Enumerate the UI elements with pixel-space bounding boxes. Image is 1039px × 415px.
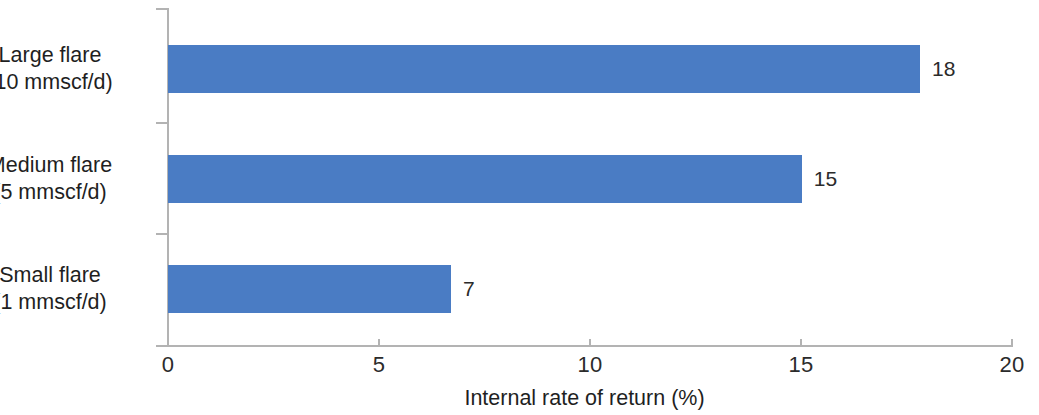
category-label-line2: (1 mmscf/d) [0,289,155,316]
bar-large-flare [168,45,920,93]
category-label-small-flare: Small flare (1 mmscf/d) [0,262,155,316]
bar-chart: Large flare (10 mmscf/d) 18 Medium flare… [0,0,1039,415]
x-axis-label-10: 10 [578,352,603,378]
category-label-large-flare: Large flare (10 mmscf/d) [0,42,155,96]
y-axis-tick-1 [156,122,167,124]
category-label-line1: Medium flare [0,153,112,177]
y-axis-tick-bottom [156,345,167,347]
x-axis-tick-5 [378,339,380,347]
x-axis-tick-20 [1011,339,1013,347]
x-axis-label-5: 5 [373,352,385,378]
x-axis-title: Internal rate of return (%) [0,386,1039,411]
category-label-line1: Small flare [0,263,101,287]
category-label-medium-flare: Medium flare (5 mmscf/d) [0,152,155,206]
category-label-line1: Large flare [0,43,101,67]
bar-small-flare [168,265,451,313]
x-axis-tick-0 [167,339,169,347]
bar-value-large-flare: 18 [932,57,955,81]
y-axis-tick-top [156,8,167,10]
bar-value-small-flare: 7 [463,277,475,301]
x-axis-label-20: 20 [1000,352,1025,378]
y-axis-tick-2 [156,233,167,235]
bar-medium-flare [168,155,802,203]
x-axis-label-0: 0 [162,352,174,378]
bar-value-medium-flare: 15 [814,167,837,191]
x-axis-label-15: 15 [789,352,814,378]
category-label-line2: (5 mmscf/d) [0,179,155,206]
x-axis-title-text: Internal rate of return (%) [334,386,704,410]
x-axis-tick-10 [589,339,591,347]
x-axis-tick-15 [800,339,802,347]
category-label-line2: (10 mmscf/d) [0,69,155,96]
